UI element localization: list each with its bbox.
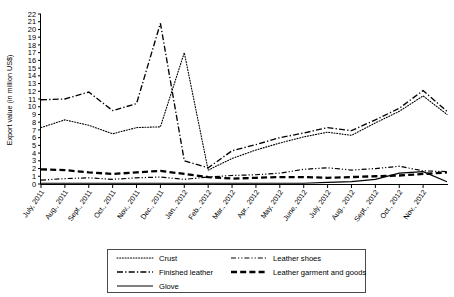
legend-item-glove[interactable]: Glove <box>116 281 179 291</box>
x-tick-label: Oct., 2012 <box>378 188 404 220</box>
line-chart: Export value (in million US$) 0123456789… <box>0 0 454 250</box>
y-tick-label: 5 <box>32 141 36 150</box>
x-tick-label: June, 2012 <box>281 188 309 222</box>
y-tick-label: 2 <box>32 164 36 173</box>
x-tick-label: Feb., 2012 <box>186 188 213 221</box>
legend-item-leather-garment-and-goods[interactable]: Leather garment and goods <box>230 267 366 277</box>
y-tick-label: 17 <box>28 48 36 57</box>
y-tick-label: 19 <box>28 33 36 42</box>
x-tick-label: Nov., 2012 <box>401 188 428 221</box>
y-tick-label: 16 <box>28 56 36 65</box>
legend-label: Leather garment and goods <box>273 268 366 277</box>
legend-swatch-thick-dash-icon <box>230 267 268 277</box>
y-tick-label: 8 <box>32 118 36 127</box>
x-tick-label: Oct., 2011 <box>92 188 118 220</box>
chart-canvas: Export value (in million US$) 0123456789… <box>0 0 454 250</box>
legend-swatch-solid-icon <box>116 281 154 291</box>
y-tick-label: 4 <box>32 149 36 158</box>
legend-label: Finished leather <box>159 268 213 277</box>
x-tick-label: July, 2011 <box>21 188 47 219</box>
y-tick-label: 9 <box>32 110 36 119</box>
series-line-finished-leather <box>41 23 447 168</box>
y-tick-label: 13 <box>28 79 36 88</box>
data-series-group <box>41 23 447 183</box>
legend-swatch-dash-dot-dot-icon <box>230 253 268 263</box>
x-tick-label: May, 2012 <box>259 188 285 220</box>
y-axis-label: Export value (in million US$) <box>5 55 14 146</box>
y-tick-label: 11 <box>28 95 36 104</box>
legend-swatch-dash-dot-icon <box>116 267 154 277</box>
legend-label: Leather shoes <box>273 254 321 263</box>
axis-lines <box>41 14 449 185</box>
y-tick-label: 1 <box>32 172 36 181</box>
y-tick-label: 6 <box>32 133 36 142</box>
y-tick-label: 0 <box>32 180 36 189</box>
x-tick-label: July, 2012 <box>307 188 333 220</box>
x-axis-ticks: July, 2011Aug., 2011Sept., 2011Oct., 201… <box>21 184 429 223</box>
chart-legend: CrustFinished leatherGloveLeather shoesL… <box>107 249 366 293</box>
y-tick-label: 21 <box>28 17 36 26</box>
x-tick-label: Dec., 2011 <box>139 188 166 221</box>
y-axis-label-text: Export value (in million US$) <box>5 55 14 146</box>
legend-swatch-dotted-icon <box>116 253 154 263</box>
y-tick-label: 15 <box>28 64 36 73</box>
y-axis-ticks: 012345678910111213141516171819202122 <box>28 10 41 189</box>
y-tick-label: 20 <box>28 25 36 34</box>
legend-item-crust[interactable]: Crust <box>116 253 177 263</box>
y-tick-label: 14 <box>28 71 36 80</box>
y-tick-label: 3 <box>32 156 36 165</box>
y-tick-label: 22 <box>28 10 36 19</box>
legend-label: Glove <box>159 282 179 291</box>
x-tick-label: Mar., 2012 <box>210 188 237 221</box>
y-tick-label: 10 <box>28 102 36 111</box>
y-tick-label: 7 <box>32 126 36 135</box>
series-line-crust <box>41 53 447 170</box>
legend-label: Crust <box>159 254 177 263</box>
y-tick-label: 12 <box>28 87 36 96</box>
x-tick-label: Apr., 2012 <box>235 188 261 220</box>
chart-figure: Export value (in million US$) 0123456789… <box>0 0 454 297</box>
legend-item-leather-shoes[interactable]: Leather shoes <box>230 253 321 263</box>
series-line-leather-garment-and-goods <box>41 169 447 178</box>
y-tick-label: 18 <box>28 41 36 50</box>
legend-item-finished-leather[interactable]: Finished leather <box>116 267 213 277</box>
